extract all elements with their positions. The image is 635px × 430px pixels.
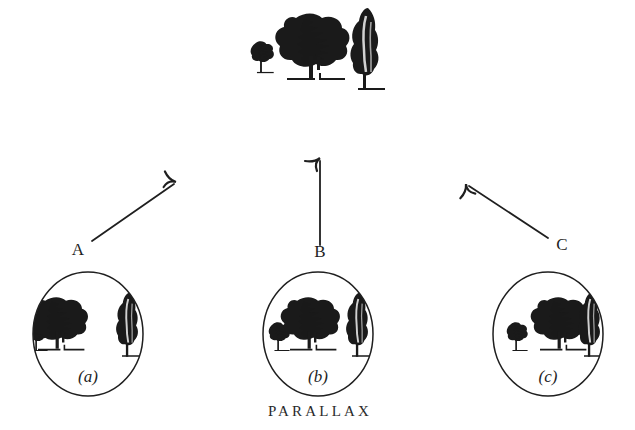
viewpoint-arrow-a: A [72,170,176,259]
view-a-label: (a) [78,367,98,386]
parallax-figure: A B C [0,0,635,430]
viewpoint-label-c: C [556,235,567,254]
view-b-cypress-tree [346,293,372,357]
viewpoint-label-a: A [72,240,85,259]
scene-big-tree [275,14,349,80]
view-b-label: (b) [308,367,328,386]
view-circle-b: (b) [263,272,373,396]
scene-cypress-tree [350,8,384,90]
view-a-cypress-tree [116,293,142,357]
viewpoint-label-b: B [314,242,325,261]
viewpoint-arrow-b: B [305,158,326,261]
view-b-big-tree [281,297,340,349]
view-c-label: (c) [539,367,558,386]
figure-canvas: A B C [0,0,635,430]
view-c-cypress-tree [578,293,604,357]
view-circle-a: (a) [27,272,143,396]
figure-caption: PARALLAX [268,403,372,419]
view-circle-c: (c) [493,272,604,396]
scene-small-tree [251,41,274,72]
view-c-small-tree [507,322,528,350]
viewpoint-arrow-c: C [458,184,568,254]
view-a-big-tree [29,297,88,349]
distant-tree-scene [251,8,384,90]
